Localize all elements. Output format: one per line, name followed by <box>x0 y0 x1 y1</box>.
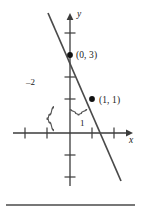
run-brace-icon <box>71 109 87 116</box>
bottom-divider <box>6 204 135 206</box>
x-axis-label: x <box>129 136 133 146</box>
data-point-1-1 <box>89 96 95 102</box>
point-label-b: (1, 1) <box>99 96 120 106</box>
rise-brace-icon <box>47 107 55 130</box>
y-axis-label: y <box>77 10 81 20</box>
y-axis-group <box>65 13 76 186</box>
graph-figure: (0, 3) (1, 1) –2 1 x y <box>0 0 141 209</box>
point-label-a: (0, 3) <box>76 51 97 61</box>
run-label: 1 <box>80 119 85 128</box>
x-axis-group <box>13 128 133 139</box>
data-point-0-3 <box>67 52 73 58</box>
rise-label: –2 <box>26 78 35 87</box>
y-axis-arrowhead <box>67 13 74 20</box>
